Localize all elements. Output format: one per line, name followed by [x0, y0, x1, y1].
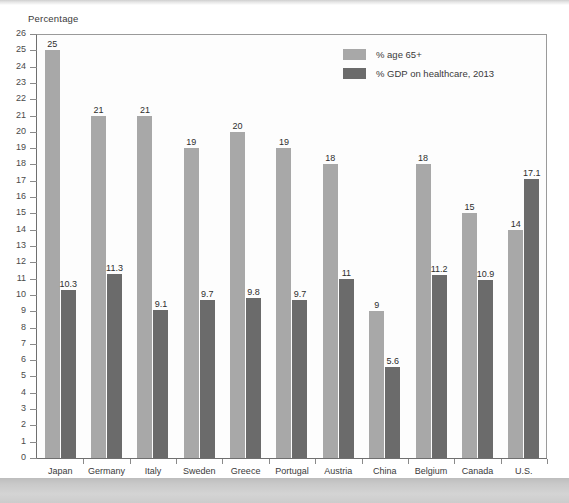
x-tick-mark: [547, 459, 548, 464]
y-tick-label: 9: [4, 305, 26, 315]
bar-group: 219.1: [130, 34, 176, 458]
x-tick-mark: [362, 459, 363, 464]
bar-value-label: 20: [233, 121, 243, 131]
bar-age65: [184, 148, 199, 458]
chart-figure: Percentage 01234567891011121314151617181…: [0, 5, 569, 478]
x-tick-mark: [130, 459, 131, 464]
bar-value-label: 15: [464, 202, 474, 212]
bar-age65: [508, 230, 523, 458]
category-label-portugal: Portugal: [275, 466, 309, 476]
y-tick-label: 1: [4, 436, 26, 446]
y-tick-label: 13: [4, 240, 26, 250]
bar-value-label: 14: [511, 219, 521, 229]
y-tick-label: 6: [4, 354, 26, 364]
category-label-u-s: U.S.: [515, 466, 533, 476]
bar-value-label: 18: [325, 153, 335, 163]
x-tick-mark: [176, 459, 177, 464]
category-label-sweden: Sweden: [183, 466, 216, 476]
y-tick-mark: [30, 328, 37, 329]
y-tick-mark: [30, 295, 37, 296]
bar-gdp: [292, 300, 307, 458]
y-tick-mark: [30, 67, 37, 68]
y-tick-mark: [30, 230, 37, 231]
chart-legend: % age 65+% GDP on healthcare, 2013: [343, 49, 494, 87]
legend-swatch-age65: [343, 49, 366, 60]
category-label-china: China: [373, 466, 397, 476]
bar-value-label: 9.8: [247, 287, 260, 297]
y-tick-label: 14: [4, 224, 26, 234]
x-tick-mark: [408, 459, 409, 464]
bar-gdp: [524, 179, 539, 458]
y-tick-mark: [30, 360, 37, 361]
bar-group: 1417.1: [501, 34, 547, 458]
y-tick-label: 21: [4, 110, 26, 120]
legend-item: % GDP on healthcare, 2013: [343, 68, 494, 79]
y-tick-label: 16: [4, 191, 26, 201]
y-tick-label: 23: [4, 77, 26, 87]
bar-group: 1811.2: [408, 34, 454, 458]
bar-group: 2510.3: [37, 34, 83, 458]
bar-gdp: [246, 298, 261, 458]
y-tick-label: 20: [4, 126, 26, 136]
bar-gdp: [200, 300, 215, 458]
y-tick-label: 2: [4, 419, 26, 429]
y-tick-mark: [30, 132, 37, 133]
bar-group: 95.6: [362, 34, 408, 458]
bar-age65: [45, 50, 60, 458]
bar-age65: [276, 148, 291, 458]
bar-value-label: 10.9: [477, 269, 495, 279]
bar-value-label: 18: [418, 153, 428, 163]
y-tick-label: 8: [4, 322, 26, 332]
bar-value-label: 19: [186, 137, 196, 147]
bar-age65: [369, 311, 384, 458]
category-label-canada: Canada: [462, 466, 494, 476]
y-tick-mark: [30, 116, 37, 117]
y-tick-label: 18: [4, 158, 26, 168]
bar-group: 2111.3: [83, 34, 129, 458]
y-tick-label: 25: [4, 44, 26, 54]
bar-value-label: 11.3: [106, 263, 123, 273]
y-tick-label: 12: [4, 256, 26, 266]
y-tick-mark: [30, 164, 37, 165]
y-tick-label: 26: [4, 28, 26, 38]
bar-group: 1510.9: [454, 34, 500, 458]
y-tick-mark: [30, 197, 37, 198]
category-label-japan: Japan: [48, 466, 73, 476]
y-tick-mark: [30, 393, 37, 394]
x-tick-mark: [83, 459, 84, 464]
bar-value-label: 9: [374, 300, 379, 310]
y-tick-mark: [30, 34, 37, 35]
y-tick-mark: [30, 409, 37, 410]
y-tick-mark: [30, 344, 37, 345]
x-tick-mark: [269, 459, 270, 464]
y-tick-mark: [30, 99, 37, 100]
bar-gdp: [385, 367, 400, 458]
y-tick-label: 11: [4, 273, 26, 283]
bar-age65: [462, 213, 477, 458]
y-tick-mark: [30, 376, 37, 377]
y-tick-label: 19: [4, 142, 26, 152]
legend-swatch-gdp: [343, 68, 366, 79]
legend-label: % age 65+: [376, 49, 422, 60]
y-tick-mark: [30, 262, 37, 263]
category-label-italy: Italy: [145, 466, 162, 476]
legend-item: % age 65+: [343, 49, 494, 60]
y-tick-mark: [30, 83, 37, 84]
bar-value-label: 17.1: [523, 168, 541, 178]
y-tick-mark: [30, 425, 37, 426]
bar-value-label: 9.7: [201, 289, 214, 299]
bar-group: 199.7: [269, 34, 315, 458]
bars-layer: 2510.32111.3219.1199.7209.8199.7181195.6…: [37, 34, 547, 458]
bar-group: 199.7: [176, 34, 222, 458]
y-tick-label: 5: [4, 370, 26, 380]
y-tick-mark: [30, 246, 37, 247]
bar-value-label: 9.7: [294, 289, 307, 299]
bar-gdp: [339, 279, 354, 458]
bar-value-label: 25: [47, 39, 57, 49]
y-axis-title: Percentage: [28, 13, 79, 24]
y-tick-label: 4: [4, 387, 26, 397]
x-tick-mark: [315, 459, 316, 464]
bar-value-label: 11.2: [431, 264, 448, 274]
y-tick-label: 3: [4, 403, 26, 413]
bar-gdp: [153, 310, 168, 458]
